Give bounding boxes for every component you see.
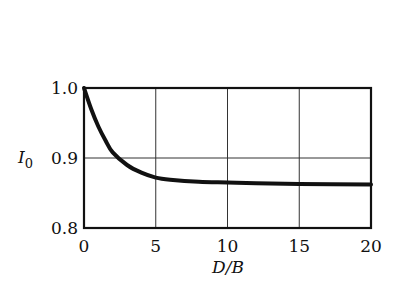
y-tick-labels: 0.80.91.0 (51, 78, 78, 238)
x-tick-labels: 05101520 (79, 236, 382, 256)
grid-lines (84, 88, 371, 228)
x-axis-label: D/B (211, 257, 244, 277)
y-tick-label: 0.9 (51, 148, 78, 168)
x-tick-label: 10 (217, 236, 239, 256)
y-tick-label: 0.8 (51, 218, 78, 238)
x-tick-label: 15 (288, 236, 310, 256)
y-axis-label: I0 (17, 147, 33, 171)
y-tick-label: 1.0 (51, 78, 78, 98)
x-tick-label: 5 (150, 236, 161, 256)
x-tick-label: 20 (360, 236, 382, 256)
chart: 0.80.91.0 05101520 I0 D/B (0, 0, 410, 308)
x-tick-label: 0 (79, 236, 90, 256)
